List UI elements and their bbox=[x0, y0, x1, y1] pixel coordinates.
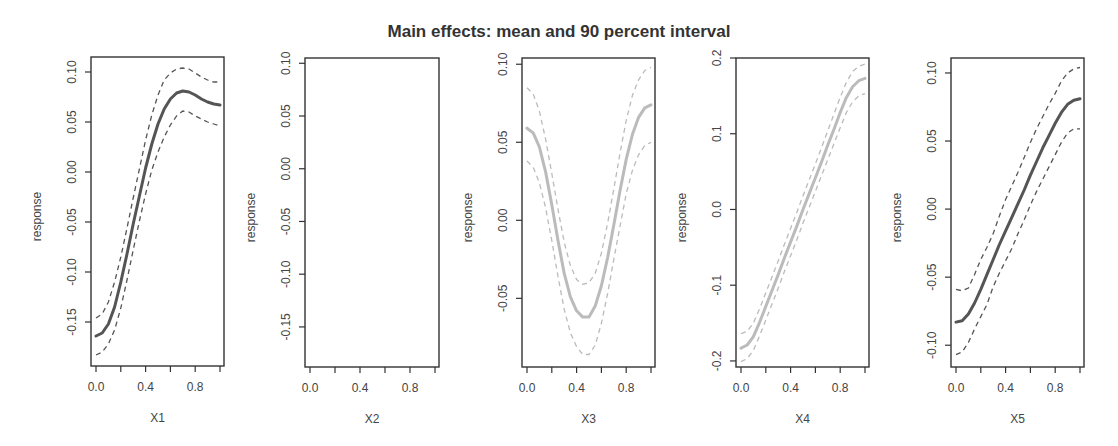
y-tick-label: 0.05 bbox=[496, 130, 510, 154]
y-tick-label: -0.05 bbox=[496, 284, 510, 312]
panels-canvas: 0.00.40.8X1-0.15-0.10-0.050.000.050.10re… bbox=[0, 0, 1118, 446]
panel-x1: 0.00.40.8X1-0.15-0.10-0.050.000.050.10re… bbox=[30, 57, 224, 425]
x-axis-label: X2 bbox=[365, 412, 380, 426]
x-tick-label: 0.8 bbox=[1047, 381, 1064, 395]
lower-interval-line bbox=[96, 111, 220, 355]
plot-frame bbox=[305, 58, 439, 367]
lower-interval-line bbox=[956, 129, 1080, 355]
y-tick-label: -0.15 bbox=[65, 308, 79, 336]
y-axis-label: response bbox=[461, 192, 475, 242]
x-tick-label: 0.4 bbox=[352, 381, 369, 395]
y-tick-label: 0.1 bbox=[710, 125, 724, 142]
y-tick-label: -0.05 bbox=[925, 263, 939, 291]
y-tick-label: -0.10 bbox=[65, 258, 79, 286]
y-tick-label: -0.05 bbox=[279, 207, 293, 235]
y-tick-label: 0.2 bbox=[710, 49, 724, 66]
upper-interval-line bbox=[96, 68, 220, 318]
upper-interval-line bbox=[741, 64, 865, 334]
x-tick-label: 0.8 bbox=[832, 381, 849, 395]
x-axis-label: X4 bbox=[795, 412, 810, 426]
x-tick-label: 0.8 bbox=[618, 381, 635, 395]
y-tick-label: 0.00 bbox=[496, 208, 510, 232]
y-axis-label: response bbox=[890, 192, 904, 242]
panel-x4: 0.00.40.8X4-0.2-0.10.00.10.2response bbox=[675, 49, 869, 426]
y-tick-label: 0.0 bbox=[710, 201, 724, 218]
x-tick-label: 0.0 bbox=[948, 381, 965, 395]
y-tick-label: 0.00 bbox=[65, 160, 79, 184]
y-tick-label: -0.15 bbox=[279, 313, 293, 341]
y-tick-label: 0.10 bbox=[496, 52, 510, 76]
x-tick-label: 0.8 bbox=[402, 381, 419, 395]
y-tick-label: -0.05 bbox=[65, 208, 79, 236]
main-effects-figure: Main effects: mean and 90 percent interv… bbox=[0, 0, 1118, 446]
mean-line bbox=[741, 78, 865, 348]
x-axis-label: X1 bbox=[150, 411, 165, 425]
mean-line bbox=[96, 91, 220, 336]
y-tick-label: -0.1 bbox=[710, 275, 724, 296]
x-tick-label: 0.0 bbox=[733, 381, 750, 395]
panel-x2: 0.00.40.8X2-0.15-0.10-0.050.000.050.10re… bbox=[244, 51, 439, 426]
x-axis-label: X5 bbox=[1010, 412, 1025, 426]
x-tick-label: 0.4 bbox=[137, 380, 154, 394]
x-tick-label: 0.4 bbox=[568, 381, 585, 395]
y-tick-label: -0.10 bbox=[925, 331, 939, 359]
y-axis-label: response bbox=[244, 192, 258, 242]
x-tick-label: 0.4 bbox=[997, 381, 1014, 395]
y-tick-label: 0.10 bbox=[925, 61, 939, 85]
y-tick-label: 0.05 bbox=[279, 104, 293, 128]
y-axis-label: response bbox=[675, 192, 689, 242]
y-tick-label: 0.10 bbox=[279, 51, 293, 75]
x-tick-label: 0.0 bbox=[88, 380, 105, 394]
x-tick-label: 0.8 bbox=[187, 380, 204, 394]
panel-x3: 0.00.40.8X3-0.050.000.050.10response bbox=[461, 52, 655, 426]
y-tick-label: 0.10 bbox=[65, 60, 79, 84]
plot-frame bbox=[522, 58, 655, 367]
y-axis-label: response bbox=[30, 191, 44, 241]
y-tick-label: -0.10 bbox=[279, 260, 293, 288]
x-tick-label: 0.0 bbox=[519, 381, 536, 395]
y-tick-label: 0.00 bbox=[279, 157, 293, 181]
y-tick-label: 0.05 bbox=[65, 110, 79, 134]
y-tick-label: -0.2 bbox=[710, 350, 724, 371]
x-tick-label: 0.0 bbox=[302, 381, 319, 395]
upper-interval-line bbox=[956, 68, 1080, 291]
plot-frame bbox=[951, 58, 1084, 367]
mean-line bbox=[956, 99, 1080, 322]
x-axis-label: X3 bbox=[581, 412, 596, 426]
y-tick-label: 0.00 bbox=[925, 197, 939, 221]
y-tick-label: 0.05 bbox=[925, 129, 939, 153]
panel-x5: 0.00.40.8X5-0.10-0.050.000.050.10respons… bbox=[890, 58, 1084, 426]
x-tick-label: 0.4 bbox=[782, 381, 799, 395]
